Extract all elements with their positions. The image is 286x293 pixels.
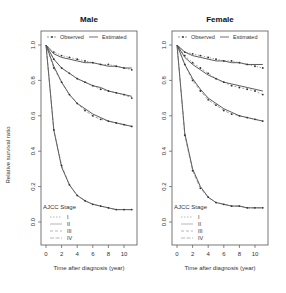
- observed-point: [231, 113, 233, 115]
- chart-male: Male0.00.20.40.60.81.00246810Time after …: [0, 0, 143, 293]
- observed-point: [108, 207, 110, 209]
- observed-point: [115, 209, 117, 211]
- observed-point: [200, 187, 202, 189]
- legend-stage-item: I: [67, 214, 69, 220]
- observed-point: [123, 209, 125, 211]
- observed-point: [184, 51, 186, 53]
- observed-point: [207, 99, 209, 101]
- observed-line: [46, 45, 132, 98]
- y-tick-label: 0.2: [161, 182, 167, 191]
- observed-line: [177, 45, 263, 95]
- observed-point: [115, 122, 117, 124]
- legend-ajcc-stage: AJCC StageIIIIIIIV: [174, 204, 208, 241]
- observed-point: [123, 94, 125, 96]
- x-tick-label: 0: [175, 251, 179, 257]
- observed-point: [223, 203, 225, 205]
- observed-point: [223, 110, 225, 112]
- observed-point: [215, 104, 217, 106]
- x-tick-label: 8: [107, 251, 111, 257]
- observed-point: [84, 60, 86, 62]
- observed-point: [200, 67, 202, 69]
- x-tick-label: 8: [238, 251, 242, 257]
- observed-line: [46, 45, 132, 126]
- observed-point: [262, 67, 264, 69]
- observed-point: [239, 205, 241, 207]
- observed-point: [61, 164, 63, 166]
- y-tick-label: 0.4: [30, 146, 36, 155]
- observed-line: [177, 45, 263, 208]
- observed-point: [254, 90, 256, 92]
- observed-point: [76, 195, 78, 197]
- observed-point: [254, 65, 256, 67]
- observed-point: [184, 55, 186, 57]
- x-tick-label: 0: [44, 251, 48, 257]
- observed-point: [69, 56, 71, 58]
- observed-point: [184, 134, 186, 136]
- observed-line: [46, 45, 132, 210]
- observed-point: [200, 90, 202, 92]
- observed-point: [200, 55, 202, 57]
- observed-point: [254, 207, 256, 209]
- observed-point: [115, 65, 117, 67]
- observed-point: [53, 58, 55, 60]
- y-tick-label: 0.8: [30, 76, 36, 85]
- legend-observed-estimated: ObservedEstimated: [178, 34, 257, 40]
- observed-point: [84, 81, 86, 83]
- estimated-line: [177, 45, 263, 91]
- x-tick-label: 2: [191, 251, 195, 257]
- y-tick-label: 0.0: [30, 217, 36, 226]
- legend-stage-item: II: [198, 221, 202, 227]
- observed-point: [76, 103, 78, 105]
- observed-point: [100, 118, 102, 120]
- observed-point: [246, 64, 248, 66]
- x-axis-label: Time after diagnosis (year): [184, 265, 255, 271]
- observed-point: [53, 67, 55, 69]
- observed-point: [100, 64, 102, 66]
- legend-stage-item: III: [67, 228, 72, 234]
- legend-ajcc-stage: AJCC StageIIIIIIIV: [43, 204, 77, 241]
- chart-title: Male: [80, 15, 98, 24]
- observed-point: [84, 200, 86, 202]
- panel-male: Male0.00.20.40.60.81.00246810Time after …: [0, 0, 143, 293]
- observed-point: [184, 64, 186, 66]
- estimated-line: [46, 45, 132, 126]
- observed-line: [177, 45, 263, 121]
- legend-stage-title: AJCC Stage: [43, 204, 77, 210]
- y-tick-label: 0.4: [161, 146, 167, 155]
- y-tick-label: 0.8: [161, 76, 167, 85]
- legend-stage-item: I: [198, 214, 200, 220]
- y-tick-label: 1.0: [161, 40, 167, 49]
- observed-point: [223, 60, 225, 62]
- observed-point: [108, 120, 110, 122]
- observed-point: [246, 88, 248, 90]
- observed-point: [239, 87, 241, 89]
- observed-point: [92, 62, 94, 64]
- estimated-line: [46, 45, 132, 96]
- observed-point: [239, 115, 241, 117]
- observed-point: [61, 81, 63, 83]
- observed-point: [207, 72, 209, 74]
- y-tick-label: 0.6: [161, 111, 167, 120]
- legend-stage-item: II: [67, 221, 71, 227]
- observed-point: [223, 81, 225, 83]
- legend-estimated-label: Estimated: [233, 34, 257, 40]
- observed-point: [123, 124, 125, 126]
- x-axis-label: Time after diagnosis (year): [53, 265, 124, 271]
- observed-point: [246, 117, 248, 119]
- legend-stage-item: III: [198, 228, 203, 234]
- chart-title: Female: [206, 15, 234, 24]
- observed-point: [192, 53, 194, 55]
- observed-point: [246, 207, 248, 209]
- observed-point: [53, 51, 55, 53]
- chart-female: Female0.00.20.40.60.81.00246810Time afte…: [131, 0, 286, 293]
- observed-point: [192, 170, 194, 172]
- y-tick-label: 0.0: [161, 217, 167, 226]
- observed-line: [46, 45, 132, 70]
- x-tick-label: 6: [222, 251, 226, 257]
- observed-point: [69, 184, 71, 186]
- y-tick-label: 0.6: [30, 111, 36, 120]
- observed-point: [254, 118, 256, 120]
- observed-point: [192, 80, 194, 82]
- x-tick-label: 10: [252, 251, 259, 257]
- legend-observed-label: Observed: [191, 34, 215, 40]
